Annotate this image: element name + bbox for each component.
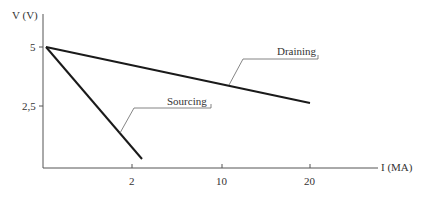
sourcing-annotation: Sourcing (167, 96, 207, 107)
y-axis-label: V (V) (12, 10, 38, 21)
chart-canvas (0, 0, 434, 197)
x-tick-label-20: 20 (304, 176, 315, 187)
draining-annotation: Draining (277, 46, 316, 57)
x-tick-label-10: 10 (216, 176, 227, 187)
x-tick-label-2: 2 (129, 176, 135, 187)
x-axis-label: I (MA) (381, 162, 412, 173)
y-tick-label-5: 5 (30, 42, 36, 53)
y-tick-label-2-5: 2,5 (22, 101, 36, 112)
draining-leader (229, 55, 318, 85)
sourcing-leader (120, 104, 211, 133)
